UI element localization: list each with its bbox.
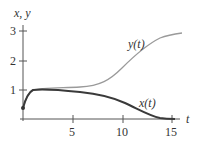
x-tick-label-5: 5 <box>69 125 75 139</box>
y-axis-label: x, y <box>13 6 31 20</box>
y-curve-label: y(t) <box>127 37 145 51</box>
x-tick-label-15: 15 <box>165 125 177 139</box>
y-tick-label-2: 2 <box>10 54 16 68</box>
x-tick-label-10: 10 <box>116 125 128 139</box>
x-curve-label: x(t) <box>138 96 156 110</box>
y-tick-label-3: 3 <box>10 24 16 38</box>
y-tick-label-1: 1 <box>10 83 16 97</box>
x-axis-label: t <box>186 112 190 126</box>
start-point <box>21 106 25 110</box>
y-curve <box>23 33 182 108</box>
chart: 3 2 1 5 10 15 x, y t y(t) x(t) <box>0 0 202 148</box>
